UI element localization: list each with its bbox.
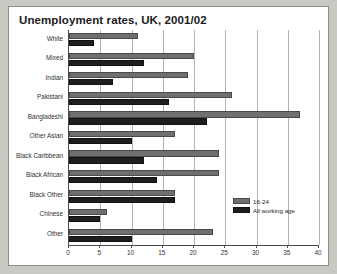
bar-row bbox=[69, 167, 318, 187]
bar-all-working-age bbox=[69, 197, 175, 203]
category-label-text: Bangladeshi bbox=[28, 113, 63, 120]
x-axis-tick bbox=[193, 245, 194, 248]
legend-item-young: 16-24 bbox=[233, 197, 295, 205]
x-axis-tick-label: 15 bbox=[158, 249, 165, 256]
category-label-text: Other Asian bbox=[30, 132, 63, 139]
category-label-text: Black Caribbean bbox=[16, 152, 63, 159]
chart-title: Unemployment rates, UK, 2001/02 bbox=[19, 14, 207, 26]
x-axis-tick bbox=[99, 245, 100, 248]
legend-label-allage: All working age bbox=[253, 207, 295, 214]
category-label: Pakistani bbox=[9, 89, 65, 109]
bar-young bbox=[69, 111, 300, 117]
bar-young bbox=[69, 229, 213, 235]
category-label-text: Other bbox=[47, 230, 63, 237]
category-label: White bbox=[9, 30, 65, 50]
category-label: Chinese bbox=[9, 206, 65, 226]
bar-row bbox=[69, 225, 318, 245]
x-axis-tick-label: 0 bbox=[66, 249, 70, 256]
bar-young bbox=[69, 92, 232, 98]
bar-young bbox=[69, 150, 219, 156]
category-label: Black Caribbean bbox=[9, 147, 65, 167]
category-axis-labels: WhiteMixedIndianPakistaniBangladeshiOthe… bbox=[9, 30, 65, 245]
x-axis-tick bbox=[256, 245, 257, 248]
bar-all-working-age bbox=[69, 177, 157, 183]
bar-young bbox=[69, 72, 188, 78]
x-axis-tick-label: 5 bbox=[97, 249, 101, 256]
category-label-text: White bbox=[47, 35, 63, 42]
bar-young bbox=[69, 53, 194, 59]
category-label: Black African bbox=[9, 167, 65, 187]
category-label-text: Indian bbox=[46, 74, 63, 81]
category-label-text: Mixed bbox=[46, 54, 63, 61]
bar-all-working-age bbox=[69, 60, 144, 66]
x-axis-tick bbox=[318, 245, 319, 248]
chart-figure: Unemployment rates, UK, 2001/02 WhiteMix… bbox=[8, 6, 329, 266]
bar-young bbox=[69, 209, 107, 215]
chart-legend: 16-24 All working age bbox=[233, 197, 295, 215]
bar-row bbox=[69, 108, 318, 128]
bar-row bbox=[69, 128, 318, 148]
bar-all-working-age bbox=[69, 99, 169, 105]
bar-young bbox=[69, 131, 175, 137]
legend-swatch-icon-allage bbox=[233, 207, 250, 213]
bar-all-working-age bbox=[69, 216, 100, 222]
x-axis-tick bbox=[68, 245, 69, 248]
category-label-text: Black Other bbox=[30, 191, 63, 198]
category-label: Bangladeshi bbox=[9, 108, 65, 128]
x-axis-tick-label: 20 bbox=[189, 249, 196, 256]
bar-row bbox=[69, 147, 318, 167]
x-axis-tick bbox=[131, 245, 132, 248]
category-label: Black Other bbox=[9, 186, 65, 206]
legend-label-young: 16-24 bbox=[253, 198, 269, 205]
category-label: Mixed bbox=[9, 50, 65, 70]
x-axis-tick bbox=[162, 245, 163, 248]
category-label: Other bbox=[9, 225, 65, 245]
bar-row bbox=[69, 50, 318, 70]
bar-young bbox=[69, 170, 219, 176]
x-axis-tick-label: 40 bbox=[314, 249, 321, 256]
x-axis-tick bbox=[287, 245, 288, 248]
bar-row bbox=[69, 69, 318, 89]
x-axis-tick-label: 25 bbox=[221, 249, 228, 256]
bar-all-working-age bbox=[69, 79, 113, 85]
bar-young bbox=[69, 190, 175, 196]
category-label-text: Black African bbox=[26, 171, 63, 178]
category-label: Other Asian bbox=[9, 128, 65, 148]
category-label: Indian bbox=[9, 69, 65, 89]
bar-row bbox=[69, 30, 318, 50]
bar-all-working-age bbox=[69, 138, 132, 144]
x-axis-tick-label: 10 bbox=[127, 249, 134, 256]
bar-row bbox=[69, 89, 318, 109]
bar-all-working-age bbox=[69, 40, 94, 46]
plot-wrapper: WhiteMixedIndianPakistaniBangladeshiOthe… bbox=[9, 29, 330, 265]
bar-all-working-age bbox=[69, 157, 144, 163]
bar-young bbox=[69, 33, 138, 39]
legend-item-allage: All working age bbox=[233, 206, 295, 214]
bar-all-working-age bbox=[69, 236, 132, 242]
x-axis-tick-label: 30 bbox=[252, 249, 259, 256]
x-axis-tick bbox=[224, 245, 225, 248]
legend-swatch-icon-young bbox=[233, 198, 250, 204]
category-label-text: Pakistani bbox=[37, 93, 63, 100]
x-axis-tick-label: 35 bbox=[283, 249, 290, 256]
gridline bbox=[319, 30, 320, 245]
category-label-text: Chinese bbox=[40, 210, 63, 217]
bar-all-working-age bbox=[69, 118, 207, 124]
